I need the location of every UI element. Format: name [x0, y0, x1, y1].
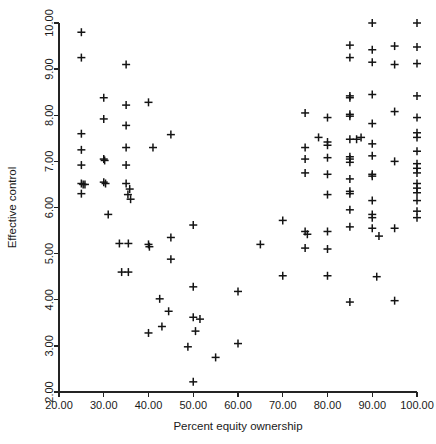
data-point-marker [368, 152, 376, 160]
data-point-marker [413, 189, 421, 197]
data-point-marker [346, 41, 354, 49]
data-point-marker [368, 224, 376, 232]
data-point-marker [189, 378, 197, 386]
data-point-marker [100, 178, 108, 186]
data-point-marker [324, 245, 332, 253]
data-point-marker [368, 90, 376, 98]
data-point-marker [212, 353, 220, 361]
data-point-marker [115, 239, 123, 247]
data-point-marker [77, 190, 85, 198]
y-tick-label: 6.00 [43, 197, 55, 218]
y-axis-title: Effective control [6, 167, 18, 249]
y-tick-label: 7.00 [43, 151, 55, 172]
data-point-marker [391, 108, 399, 116]
data-point-marker [413, 19, 421, 27]
data-point-marker [101, 156, 109, 164]
data-point-marker [234, 287, 242, 295]
y-tick-label: 3.00 [43, 335, 55, 356]
data-point-marker [391, 224, 399, 232]
scatter-plot-figure: 2.003.004.005.006.007.008.009.0010.00 20… [0, 0, 436, 444]
plot-canvas: 2.003.004.005.006.007.008.009.0010.00 20… [0, 0, 436, 444]
data-point-marker [167, 131, 175, 139]
data-point-marker [346, 175, 354, 183]
data-point-marker [167, 233, 175, 241]
data-point-marker [346, 298, 354, 306]
data-point-marker [375, 232, 383, 240]
data-point-marker [413, 169, 421, 177]
data-point-marker [324, 191, 332, 199]
data-point-marker [104, 210, 112, 218]
data-point-marker [77, 180, 85, 188]
data-point-marker [145, 329, 153, 337]
data-point-marker [301, 155, 309, 163]
data-point-marker [368, 172, 376, 180]
data-point-marker [122, 61, 130, 69]
data-point-marker [167, 255, 175, 263]
data-point-marker [77, 161, 85, 169]
data-point-marker [77, 28, 85, 36]
x-tick-label: 90.00 [358, 399, 386, 411]
x-axis-tick-group: 20.0030.0040.0050.0060.0070.0080.0090.00… [45, 392, 434, 411]
data-point-marker [413, 147, 421, 155]
data-point-marker [100, 115, 108, 123]
x-tick-label: 30.00 [90, 399, 118, 411]
data-point-marker [126, 185, 134, 193]
data-point-marker [158, 323, 166, 331]
data-point-marker [346, 223, 354, 231]
data-point-marker [77, 130, 85, 138]
data-point-marker [122, 144, 130, 152]
data-point-marker [413, 43, 421, 51]
y-tick-label: 9.00 [43, 58, 55, 79]
data-point-marker [357, 133, 365, 141]
data-point-marker [77, 54, 85, 62]
data-point-marker [189, 221, 197, 229]
data-point-marker [368, 197, 376, 205]
data-point-marker [279, 216, 287, 224]
data-point-marker [324, 114, 332, 122]
data-point-marker [196, 315, 204, 323]
x-tick-label: 70.00 [269, 399, 297, 411]
data-point-marker [413, 60, 421, 68]
data-point-group [77, 19, 421, 386]
y-tick-label: 5.00 [43, 243, 55, 264]
data-point-marker [353, 135, 361, 143]
data-point-marker [156, 295, 164, 303]
y-tick-label: 4.00 [43, 289, 55, 310]
data-point-marker [413, 92, 421, 100]
data-point-marker [413, 133, 421, 141]
data-point-marker [124, 239, 132, 247]
data-point-marker [165, 307, 173, 315]
data-point-marker [368, 19, 376, 27]
data-point-marker [279, 272, 287, 280]
data-point-marker [234, 340, 242, 348]
data-point-marker [346, 112, 354, 120]
data-point-marker [184, 343, 192, 351]
data-point-marker [124, 268, 132, 276]
x-tick-label: 100.00 [400, 399, 434, 411]
data-point-marker [368, 120, 376, 128]
x-tick-label: 20.00 [45, 399, 73, 411]
data-point-marker [368, 46, 376, 54]
data-point-marker [122, 121, 130, 129]
x-tick-label: 60.00 [224, 399, 252, 411]
data-point-marker [315, 133, 323, 141]
data-point-marker [373, 273, 381, 281]
data-point-marker [391, 61, 399, 69]
x-tick-label: 40.00 [135, 399, 163, 411]
y-tick-label: 8.00 [43, 105, 55, 126]
y-tick-label: 10.00 [43, 9, 55, 37]
data-point-marker [301, 144, 309, 152]
data-point-marker [324, 227, 332, 235]
data-point-marker [368, 58, 376, 66]
data-point-marker [145, 98, 153, 106]
data-point-marker [391, 42, 399, 50]
data-point-marker [413, 114, 421, 122]
data-point-marker [191, 327, 199, 335]
data-point-marker [122, 101, 130, 109]
data-point-marker [256, 240, 264, 248]
data-point-marker [391, 157, 399, 165]
data-point-marker [413, 197, 421, 205]
data-point-marker [391, 297, 399, 305]
data-point-marker [189, 313, 197, 321]
data-point-marker [122, 161, 130, 169]
